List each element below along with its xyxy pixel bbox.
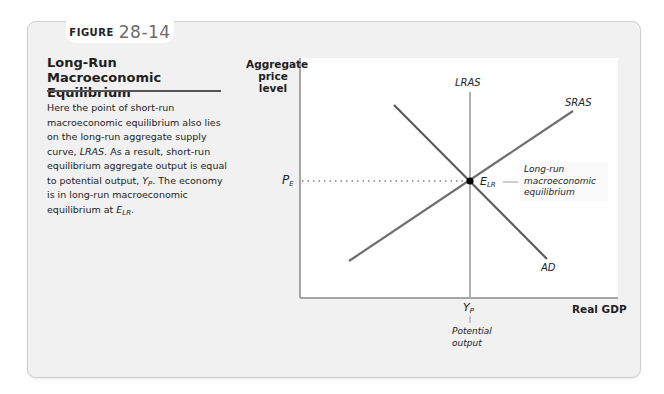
yp-tick-label: YP [463, 301, 474, 314]
potential-output-note: Potential output [452, 326, 492, 349]
y-axis-label: Aggregate price level [246, 58, 300, 94]
pe-tick-label: PE [282, 173, 294, 187]
elr-label: ELR [480, 175, 496, 188]
lras-label: LRAS [455, 77, 481, 88]
equilibrium-note: Long-run macroeconomic equilibrium [520, 162, 608, 201]
ad-label: AD [541, 262, 556, 273]
sras-label: SRAS [565, 97, 591, 108]
equilibrium-point [466, 177, 473, 184]
x-axis-label: Real GDP [572, 303, 627, 315]
